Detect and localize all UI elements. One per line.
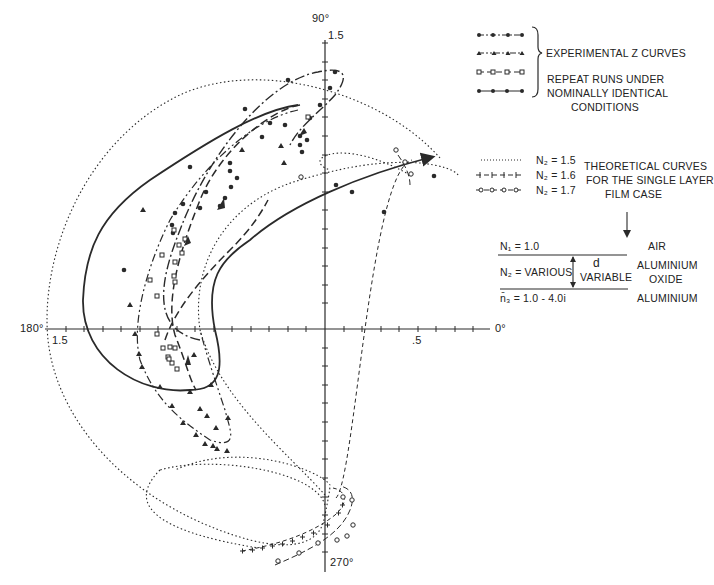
legend-theory-line3: FILM CASE (605, 188, 662, 200)
legend-n15: N₂ = 1.5 (536, 154, 576, 166)
legend-n17: N₂ = 1.7 (536, 184, 576, 196)
layer-n2: N₂ = VARIOUS (500, 266, 573, 278)
markers-filled-triangles (127, 143, 287, 453)
label-90-degrees: 90° (312, 12, 329, 24)
markers-open-circles (276, 148, 413, 563)
tick-label-left: 1.5 (52, 334, 68, 346)
layer-variable: VARIABLE (580, 271, 632, 283)
experimental-triangles-curve (137, 110, 298, 443)
legend-note-line2: NOMINALLY IDENTICAL (547, 87, 668, 99)
label-180-degrees: 180° (20, 322, 44, 334)
experimental-circles-curve (164, 70, 344, 340)
legend-note-line1: REPEAT RUNS UNDER (547, 73, 664, 85)
label-0-degrees: 0° (495, 322, 506, 334)
markers-crosses (240, 503, 345, 554)
layer-aluminium: ALUMINIUM (637, 292, 698, 304)
layer-aluminium-oxide-2: OXIDE (649, 273, 683, 285)
h-ticks (66, 43, 473, 552)
layer-n1: N₁ = 1.0 (500, 240, 539, 252)
legend-theory-line2: FOR THE SINGLE LAYER (586, 174, 714, 186)
layer-n3: n̄₃ = 1.0 - 4.0i (500, 292, 566, 304)
legend-n16: N₂ = 1.6 (536, 169, 576, 181)
legend-note-line3: CONDITIONS (571, 101, 639, 113)
legend-theory-line1: THEORETICAL CURVES (584, 160, 707, 172)
layer-d: d (593, 256, 600, 270)
markers-filled-circles (122, 70, 437, 273)
label-270-degrees: 270° (330, 556, 354, 568)
legend-brace (532, 27, 542, 97)
tick-label-top: 1.5 (328, 29, 344, 41)
experimental-solid-curve (83, 105, 432, 390)
tick-label-right: .5 (412, 334, 422, 346)
layer-aluminium-oxide-1: ALUMINIUM (637, 259, 698, 271)
layer-air: AIR (648, 240, 666, 252)
legend-experimental-title: EXPERIMENTAL Z CURVES (546, 47, 686, 59)
theory-n16-curve (242, 160, 412, 551)
